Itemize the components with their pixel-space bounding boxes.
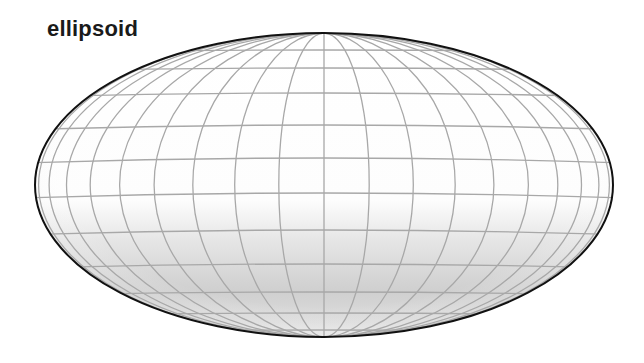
ellipsoid-figure [0,0,644,363]
